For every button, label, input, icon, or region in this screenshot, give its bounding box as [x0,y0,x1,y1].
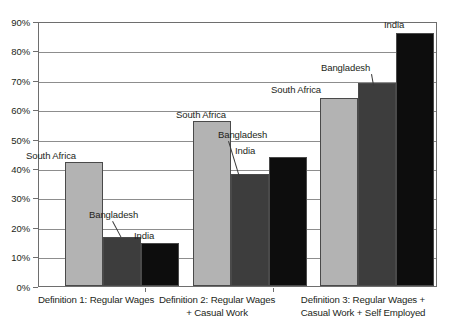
y-tick-label-70: 70% [11,75,30,86]
bar-definition-2-south-africa [193,121,231,286]
bar-annotation-def2-south-africa: South Africa [176,109,226,120]
bar-chart: 90% 80% 70% 60% 50% 40% 30% 20% 10% 0% [0,0,449,331]
bar-definition-3-bangladesh [358,83,396,286]
x-tick-label-definition-3: Definition 3: Regular Wages + Casual Wor… [283,294,443,319]
x-tick-label-definition-1-line-1: Definition 1: Regular Wages [26,294,166,307]
y-tick-label-90: 90% [11,17,30,28]
bar-annotation-def1-india: India [134,230,154,241]
gridline-80 [39,52,436,53]
y-tick-label-30: 30% [11,193,30,204]
x-tick-label-definition-1: Definition 1: Regular Wages [26,294,166,307]
bar-definition-3-india [396,33,434,286]
x-axis: Definition 1: Regular Wages Definition 2… [0,288,449,331]
bar-definition-2-bangladesh [231,174,269,286]
bar-definition-1-bangladesh [103,237,141,286]
bar-annotation-def1-bangladesh: Bangladesh [89,209,138,220]
bar-definition-1-india [141,243,179,286]
y-axis: 90% 80% 70% 60% 50% 40% 30% 20% 10% 0% [0,0,38,331]
x-tick-label-definition-2-line-2: + Casual Work [152,307,282,320]
bar-definition-3-south-africa [320,98,358,286]
y-tick-label-60: 60% [11,105,30,116]
bar-annotation-def2-bangladesh: Bangladesh [218,129,267,140]
x-tick-label-definition-2: Definition 2: Regular Wages + Casual Wor… [152,294,282,319]
bar-annotation-def3-india: India [384,19,404,30]
bar-annotation-def2-india: India [235,145,255,156]
y-tick-label-50: 50% [11,134,30,145]
bar-annotation-def3-bangladesh: Bangladesh [321,62,370,73]
y-tick-label-20: 20% [11,222,30,233]
bar-annotation-def1-south-africa: South Africa [26,150,76,161]
bar-definition-2-india [269,157,307,287]
x-tick-label-definition-2-line-1: Definition 2: Regular Wages [152,294,282,307]
x-tick-label-definition-3-line-2: Casual Work + Self Employed [283,307,443,320]
y-tick-label-80: 80% [11,46,30,57]
y-tick-label-10: 10% [11,252,30,263]
y-tick-label-40: 40% [11,164,30,175]
bar-definition-1-south-africa [65,162,103,286]
x-tick-mark-1 [145,288,146,292]
x-tick-mark-2 [273,288,274,292]
bar-annotation-def3-south-africa: South Africa [271,84,321,95]
x-tick-label-definition-3-line-1: Definition 3: Regular Wages + [283,294,443,307]
